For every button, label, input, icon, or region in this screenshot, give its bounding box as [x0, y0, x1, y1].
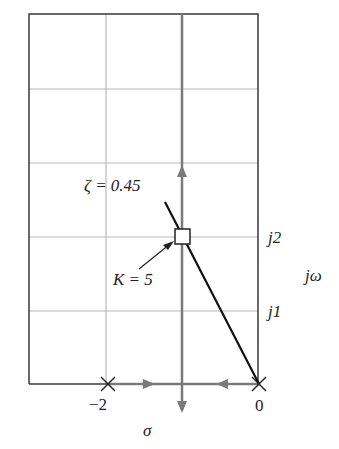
gain-text: K = 5	[113, 270, 153, 289]
plot-border	[29, 14, 258, 384]
jw-axis-label: jω	[305, 267, 322, 284]
arrow-right-icon	[143, 379, 155, 389]
arrow-down-icon	[177, 401, 187, 413]
j2-label: j2	[268, 229, 281, 246]
arrow-left-icon	[216, 379, 228, 389]
sigma-axis-label: σ	[143, 422, 151, 439]
arrow-up-icon	[177, 165, 187, 177]
gain-pointer	[139, 244, 170, 269]
j1-label: j1	[268, 303, 281, 320]
zeta-text: ζ = 0.45	[84, 176, 141, 195]
zero-tick-label: 0	[255, 397, 264, 414]
neg2-tick-label: −2	[89, 396, 107, 413]
zeta-label: ζ = 0.45	[84, 177, 141, 194]
grid	[29, 14, 258, 384]
operating-point-marker	[175, 229, 190, 244]
gain-label: K = 5	[113, 271, 153, 288]
root-locus-diagram	[0, 0, 339, 449]
